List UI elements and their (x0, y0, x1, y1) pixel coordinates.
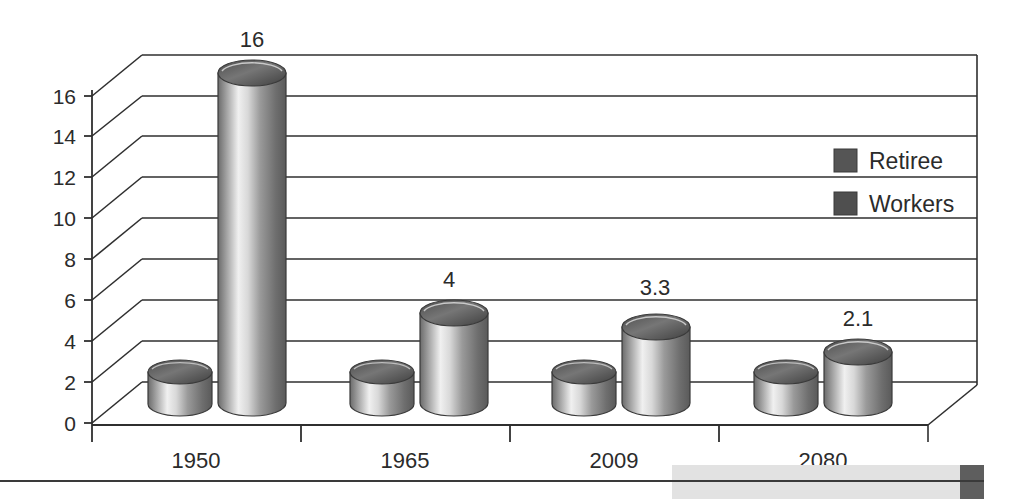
legend-label-retiree: Retiree (869, 148, 943, 174)
legend-swatch-retiree (834, 149, 857, 172)
value-label-2009: 3.3 (640, 275, 671, 300)
value-label-2080: 2.1 (843, 306, 874, 331)
x-tick-label-2009: 2009 (590, 448, 639, 473)
y-tick-label-10: 10 (53, 207, 76, 230)
bar-retiree-2009[interactable] (552, 360, 616, 416)
y-axis: 16 14 12 10 8 6 4 2 0 (53, 85, 92, 435)
y-tick-label-2: 2 (64, 371, 76, 394)
bar-group-1950: 16 (148, 27, 286, 416)
legend: Retiree Workers (834, 148, 954, 217)
y-tick-label-8: 8 (64, 248, 76, 271)
y-tick-label-4: 4 (64, 330, 76, 353)
value-label-1950: 16 (240, 27, 264, 52)
chart-container: 16 14 12 10 8 6 4 2 0 1950 1965 2009 208… (0, 0, 1027, 499)
bar-group-2009: 3.3 (552, 275, 690, 416)
bar-workers-1950[interactable] (218, 60, 286, 416)
y-tick-label-0: 0 (64, 412, 76, 435)
legend-label-workers: Workers (869, 191, 954, 217)
x-tick-label-1965: 1965 (381, 448, 430, 473)
bar-retiree-1965[interactable] (350, 360, 414, 416)
y-tick-label-12: 12 (53, 166, 76, 189)
bar-retiree-1950[interactable] (148, 360, 212, 416)
bar-retiree-2080[interactable] (754, 360, 818, 416)
y-tick-label-14: 14 (53, 125, 77, 148)
bar-group-2080: 2.1 (754, 306, 892, 416)
y-tick-label-16: 16 (53, 85, 76, 108)
bar-chart-3d: 16 14 12 10 8 6 4 2 0 1950 1965 2009 208… (0, 0, 1027, 499)
bar-workers-2009[interactable] (622, 314, 690, 416)
legend-item-retiree[interactable]: Retiree (834, 148, 943, 174)
page-footer-artifact (0, 465, 984, 499)
value-label-1965: 4 (443, 267, 455, 292)
legend-item-workers[interactable]: Workers (834, 191, 954, 217)
bar-workers-2080[interactable] (824, 339, 892, 416)
y-tick-label-6: 6 (64, 289, 76, 312)
bar-workers-1965[interactable] (420, 300, 488, 416)
x-tick-label-1950: 1950 (172, 448, 221, 473)
legend-swatch-workers (834, 192, 857, 215)
